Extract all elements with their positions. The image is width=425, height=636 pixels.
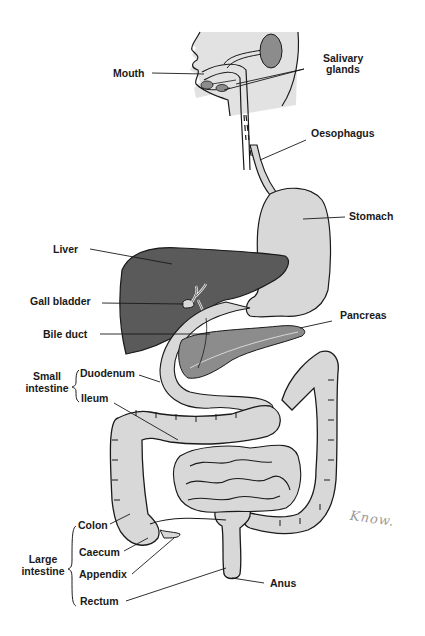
- label-gall-bladder: Gall bladder: [30, 295, 91, 307]
- small-intestine-coils-illustration: [150, 445, 301, 524]
- group-small-intestine-line2: intestine: [22, 382, 72, 394]
- group-braces: [68, 370, 79, 606]
- label-duodenum: Duodenum: [80, 367, 135, 379]
- label-stomach: Stomach: [349, 210, 393, 222]
- group-small-intestine: Small intestine: [22, 370, 72, 394]
- group-large-intestine-line1: Large: [18, 553, 68, 565]
- group-large-intestine-line2: intestine: [18, 565, 68, 577]
- label-caecum: Caecum: [79, 546, 120, 558]
- group-large-intestine: Large intestine: [18, 553, 68, 577]
- label-pancreas: Pancreas: [340, 309, 387, 321]
- label-oesophagus: Oesophagus: [311, 127, 375, 139]
- label-liver: Liver: [53, 243, 78, 255]
- group-small-intestine-line1: Small: [22, 370, 72, 382]
- label-rectum: Rectum: [80, 595, 119, 607]
- label-colon: Colon: [78, 519, 108, 531]
- label-salivary-glands-line2: glands: [326, 63, 360, 75]
- label-mouth: Mouth: [113, 67, 145, 79]
- label-appendix: Appendix: [79, 568, 127, 580]
- label-ileum: Ileum: [81, 392, 108, 404]
- label-bile-duct: Bile duct: [43, 328, 87, 340]
- pancreas-illustration: [179, 326, 305, 379]
- label-anus: Anus: [270, 577, 296, 589]
